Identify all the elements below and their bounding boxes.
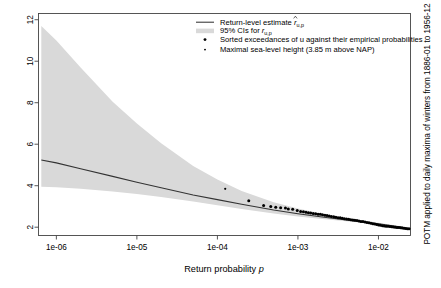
y-tick-label: 4: [26, 183, 35, 188]
exceedance-point: [302, 210, 305, 213]
y-tick-label: 8: [26, 100, 35, 105]
exceedance-point: [269, 205, 272, 208]
maximal-sea-level-point: [224, 188, 226, 190]
legend-label-max-sea-level: Maximal sea-level height (3.85 m above N…: [220, 45, 375, 54]
legend-point-swatch-large: [204, 38, 207, 41]
x-tick-label: 1e-05: [126, 243, 147, 252]
legend-label-exceedances: Sorted exceedances of u against their em…: [220, 35, 423, 44]
y-tick-label: 10: [26, 56, 35, 66]
chart-root: 12108642 1e-061e-051e-041e-031e-02 Retur…: [0, 0, 441, 288]
exceedance-point: [309, 212, 312, 215]
exceedance-point: [291, 208, 294, 211]
max-sea-level-marker: [224, 188, 226, 190]
exceedance-point: [279, 206, 282, 209]
return-level-plot: 12108642 1e-061e-051e-041e-031e-02 Retur…: [0, 0, 441, 288]
exceedance-point: [299, 210, 302, 213]
exceedance-point: [408, 227, 411, 230]
legend-band-swatch: [196, 29, 214, 34]
exceedance-point: [247, 199, 250, 202]
y-tick-label: 6: [26, 141, 35, 146]
x-tick-label: 1e-03: [287, 243, 308, 252]
y-tick-label: 12: [26, 15, 35, 25]
x-tick-label: 1e-06: [46, 243, 67, 252]
exceedance-point: [296, 209, 299, 212]
exceedance-point: [284, 207, 287, 210]
x-tick-label: 1e-04: [207, 243, 228, 252]
x-tick-label: 1e-02: [368, 243, 389, 252]
legend-point-swatch-small: [204, 49, 206, 51]
right-side-label: POTM applied to daily maxima of winters …: [423, 3, 432, 245]
exceedance-point: [262, 204, 265, 207]
exceedance-point: [274, 206, 277, 209]
y-tick-label: 2: [26, 224, 35, 229]
exceedance-point: [287, 207, 290, 210]
x-axis-title: Return probability p: [184, 264, 264, 274]
